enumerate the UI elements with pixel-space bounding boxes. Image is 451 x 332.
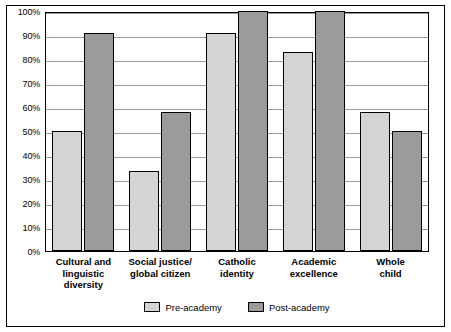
y-axis-tick-label: 40% bbox=[23, 151, 40, 161]
y-axis-tick-label: 100% bbox=[18, 7, 40, 17]
category-label: Cultural andlinguisticdiversity bbox=[45, 256, 122, 291]
y-axis-tick-label: 30% bbox=[23, 175, 40, 185]
bar bbox=[392, 131, 422, 251]
bar-chart: 0%10%20%30%40%50%60%70%80%90%100% Cultur… bbox=[0, 0, 451, 332]
bar bbox=[360, 112, 390, 251]
category-label-line: linguistic bbox=[45, 268, 122, 280]
bar bbox=[238, 11, 268, 251]
category-label-line: Social justice/ bbox=[122, 256, 199, 268]
category-label-line: excellence bbox=[275, 268, 352, 280]
legend-label-pre-academy: Pre-academy bbox=[165, 302, 222, 313]
bars-layer bbox=[45, 12, 429, 252]
bar bbox=[52, 131, 82, 251]
y-axis-tick-label: 70% bbox=[23, 79, 40, 89]
category-label: Catholicidentity bbox=[199, 256, 276, 279]
category-label-line: child bbox=[352, 268, 429, 280]
bar bbox=[129, 171, 159, 251]
y-axis-tick-label: 90% bbox=[23, 31, 40, 41]
y-axis-tick-label: 60% bbox=[23, 103, 40, 113]
y-axis-tick-label: 80% bbox=[23, 55, 40, 65]
category-label: Academicexcellence bbox=[275, 256, 352, 279]
bar bbox=[161, 112, 191, 251]
legend-item-post-academy: Post-academy bbox=[248, 302, 330, 313]
category-axis-labels: Cultural andlinguisticdiversitySocial ju… bbox=[45, 256, 429, 296]
chart-legend: Pre-academy Post-academy bbox=[45, 298, 429, 316]
category-label-line: Whole bbox=[352, 256, 429, 268]
legend-label-post-academy: Post-academy bbox=[269, 302, 330, 313]
category-label: Social justice/global citizen bbox=[122, 256, 199, 279]
category-label: Wholechild bbox=[352, 256, 429, 279]
category-label-line: global citizen bbox=[122, 268, 199, 280]
category-label-line: Catholic bbox=[199, 256, 276, 268]
bar bbox=[315, 11, 345, 251]
y-axis-tick-label: 50% bbox=[23, 127, 40, 137]
bar bbox=[84, 33, 114, 251]
y-axis-tick-label: 20% bbox=[23, 199, 40, 209]
legend-swatch-pre-academy bbox=[144, 302, 160, 312]
category-label-line: identity bbox=[199, 268, 276, 280]
bar bbox=[283, 52, 313, 251]
bar bbox=[206, 33, 236, 251]
category-label-line: Academic bbox=[275, 256, 352, 268]
legend-item-pre-academy: Pre-academy bbox=[144, 302, 222, 313]
category-label-line: Cultural and bbox=[45, 256, 122, 268]
y-axis-labels: 0%10%20%30%40%50%60%70%80%90%100% bbox=[0, 12, 43, 252]
y-axis-tick-label: 0% bbox=[27, 247, 40, 257]
category-label-line: diversity bbox=[45, 279, 122, 291]
y-axis-tick-label: 10% bbox=[23, 223, 40, 233]
legend-swatch-post-academy bbox=[248, 302, 264, 312]
